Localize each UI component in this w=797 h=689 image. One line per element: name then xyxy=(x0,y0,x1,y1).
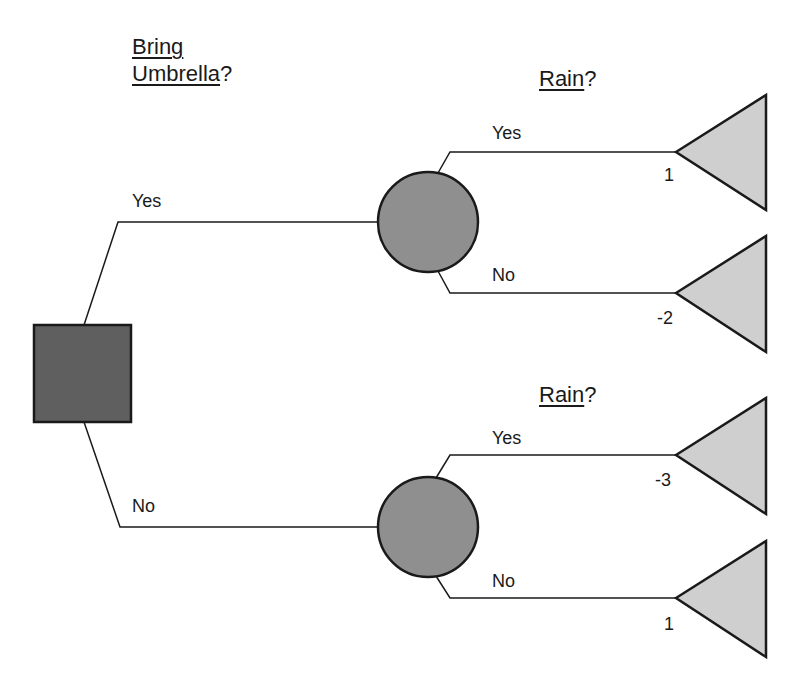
payoff-1: 1 xyxy=(664,166,674,184)
decision-title-suffix: ? xyxy=(220,61,232,86)
terminal-node-3-triangle xyxy=(676,398,766,514)
top-rain-yes-line xyxy=(438,152,676,173)
top-rain-no-line xyxy=(438,271,676,293)
decision-branch-yes-label: Yes xyxy=(132,192,161,210)
decision-title-line2: Umbrella xyxy=(132,61,220,86)
decision-tree-diagram xyxy=(0,0,797,689)
chance-node-bottom-circle xyxy=(378,477,478,577)
payoff-3: -3 xyxy=(655,471,671,489)
decision-title-line1: Bring xyxy=(132,34,183,59)
terminal-node-2-triangle xyxy=(676,236,766,352)
terminal-node-4-triangle xyxy=(676,541,766,657)
payoff-4: 1 xyxy=(664,615,674,633)
terminal-node-1-triangle xyxy=(676,95,766,210)
top-chance-no-label: No xyxy=(492,266,515,284)
top-chance-yes-label: Yes xyxy=(492,124,521,142)
bottom-chance-no-label: No xyxy=(492,572,515,590)
bottom-chance-yes-label: Yes xyxy=(492,429,521,447)
bottom-chance-title: Rain? xyxy=(539,384,597,406)
payoff-2: -2 xyxy=(657,309,673,327)
branch-no-line xyxy=(84,422,378,527)
bottom-rain-no-line xyxy=(436,576,676,598)
branch-yes-line xyxy=(84,222,378,325)
bottom-rain-yes-line xyxy=(436,455,676,478)
decision-branch-no-label: No xyxy=(132,497,155,515)
decision-node-square xyxy=(34,325,131,422)
decision-title: Bring Umbrella? xyxy=(132,36,232,85)
top-chance-title: Rain? xyxy=(539,68,597,90)
chance-node-top-circle xyxy=(378,172,478,272)
